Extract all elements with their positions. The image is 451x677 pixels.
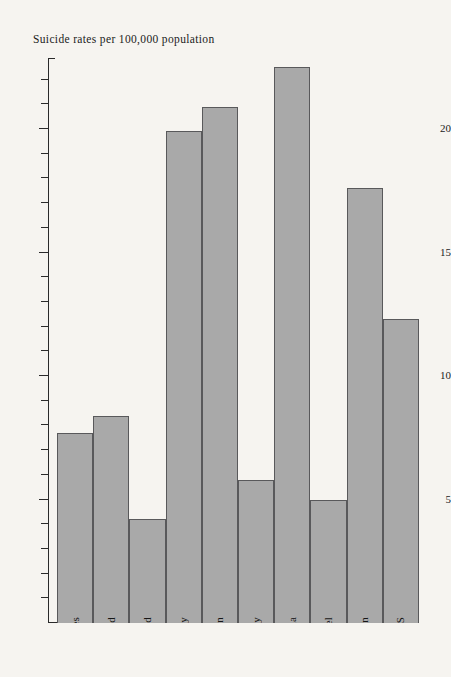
plot-area: 5101520 England and WalesScotlandNorther… bbox=[0, 0, 451, 677]
y-axis-tick-label: 15 bbox=[415, 246, 451, 258]
y-axis-tick-minor bbox=[41, 400, 48, 401]
bar[interactable]: Italy bbox=[238, 480, 274, 623]
y-axis-tick-minor bbox=[41, 548, 48, 549]
y-axis-tick-minor bbox=[41, 301, 48, 302]
bar-series: England and WalesScotlandNorthern Irelan… bbox=[57, 58, 419, 623]
y-axis-tick-major bbox=[39, 252, 48, 253]
y-axis-tick-minor bbox=[41, 597, 48, 598]
bar[interactable]: Japan bbox=[347, 188, 383, 623]
bar-category-label: Italy bbox=[251, 617, 262, 623]
y-axis-tick-label: 20 bbox=[415, 122, 451, 134]
bar[interactable]: Israel bbox=[310, 500, 346, 624]
bar[interactable]: England and Wales bbox=[57, 433, 93, 623]
y-axis-tick-label: 5 bbox=[415, 493, 451, 505]
y-axis-tick-major bbox=[39, 128, 48, 129]
y-axis-tick-minor bbox=[41, 449, 48, 450]
bar-category-label: US bbox=[395, 617, 406, 623]
bar-category-label: Northern Ireland bbox=[142, 617, 153, 623]
chart-page: Suicide rates per 100,000 population 510… bbox=[0, 0, 451, 677]
y-axis-tick-minor bbox=[41, 474, 48, 475]
y-axis-tick-minor bbox=[41, 523, 48, 524]
y-axis-tick-major bbox=[39, 499, 48, 500]
y-axis-tick-minor bbox=[41, 326, 48, 327]
y-axis-tick-minor bbox=[41, 573, 48, 574]
y-axis-tick-minor bbox=[41, 103, 48, 104]
bar[interactable]: Sweden bbox=[202, 107, 238, 623]
y-axis-tick-minor bbox=[41, 79, 48, 80]
bar[interactable]: West Germany bbox=[166, 131, 202, 623]
bar[interactable]: Czechoslovakia bbox=[274, 67, 310, 623]
y-axis-top-cap bbox=[48, 58, 55, 59]
y-axis-tick-minor bbox=[41, 350, 48, 351]
bar[interactable]: US bbox=[383, 319, 419, 623]
bar[interactable]: Northern Ireland bbox=[129, 519, 165, 623]
y-axis-tick-minor bbox=[41, 177, 48, 178]
y-axis-tick-minor bbox=[41, 227, 48, 228]
y-axis-tick-minor bbox=[41, 424, 48, 425]
bar[interactable]: Scotland bbox=[93, 416, 129, 623]
y-axis-line bbox=[48, 58, 49, 623]
bar-category-label: Czechoslovakia bbox=[287, 617, 298, 623]
y-axis-tick-minor bbox=[41, 276, 48, 277]
y-axis-tick-major bbox=[39, 375, 48, 376]
bar-category-label: Scotland bbox=[106, 617, 117, 623]
bar-category-label: West Germany bbox=[178, 617, 189, 623]
y-axis-tick-minor bbox=[41, 153, 48, 154]
bar-category-label: Sweden bbox=[214, 617, 225, 623]
y-axis-tick-label: 10 bbox=[415, 369, 451, 381]
y-axis-tick-minor bbox=[41, 202, 48, 203]
bar-category-label: England and Wales bbox=[70, 617, 81, 623]
bar-category-label: Japan bbox=[359, 617, 370, 623]
bar-category-label: Israel bbox=[323, 617, 334, 623]
